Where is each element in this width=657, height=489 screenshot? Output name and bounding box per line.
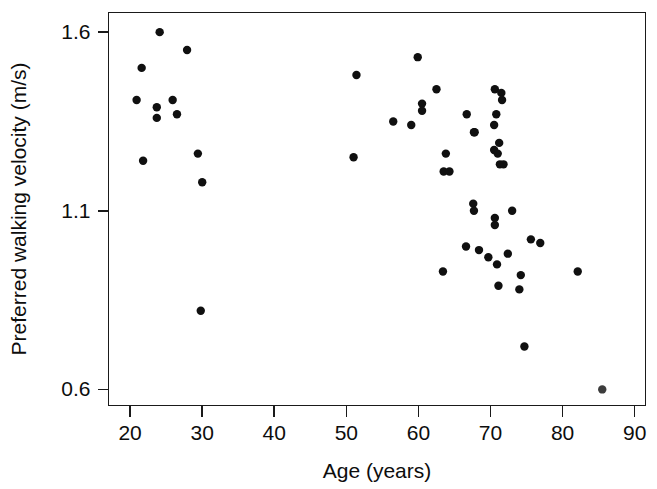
scatter-point bbox=[418, 99, 426, 107]
scatter-point bbox=[432, 85, 440, 93]
y-tick-label: 0.6 bbox=[61, 377, 90, 400]
scatter-point bbox=[414, 53, 422, 61]
scatter-point bbox=[194, 149, 202, 157]
data-points-layer bbox=[132, 28, 606, 394]
scatter-point bbox=[463, 110, 471, 118]
x-tick-label: 90 bbox=[623, 421, 646, 444]
scatter-point bbox=[490, 121, 498, 129]
scatter-point bbox=[132, 96, 140, 104]
plot-frame bbox=[109, 13, 646, 406]
scatter-point bbox=[491, 214, 499, 222]
scatter-point bbox=[515, 285, 523, 293]
scatter-point bbox=[494, 282, 502, 290]
scatter-point bbox=[504, 249, 512, 257]
scatter-point bbox=[498, 96, 506, 104]
scatter-point bbox=[445, 167, 453, 175]
scatter-point bbox=[139, 157, 147, 165]
x-axis-label: Age (years) bbox=[323, 459, 432, 482]
scatter-point bbox=[484, 253, 492, 261]
x-tick-label: 70 bbox=[479, 421, 502, 444]
scatter-point bbox=[493, 260, 501, 268]
scatter-point bbox=[494, 149, 502, 157]
y-tick-label: 1.6 bbox=[61, 20, 90, 43]
scatter-point bbox=[183, 46, 191, 54]
scatter-point bbox=[469, 199, 477, 207]
scatter-point bbox=[492, 110, 500, 118]
x-tick-label: 20 bbox=[118, 421, 141, 444]
scatter-point bbox=[598, 385, 606, 393]
scatter-point bbox=[168, 96, 176, 104]
scatter-point bbox=[198, 178, 206, 186]
scatter-plot-figure: 0.61.11.6 2030405060708090 Age (years) P… bbox=[0, 0, 657, 489]
scatter-point bbox=[137, 64, 145, 72]
scatter-point bbox=[407, 121, 415, 129]
scatter-point bbox=[508, 207, 516, 215]
plot-border bbox=[109, 13, 646, 406]
scatter-point bbox=[517, 271, 525, 279]
x-tick-label: 50 bbox=[335, 421, 358, 444]
scatter-point bbox=[491, 221, 499, 229]
x-tick-label: 60 bbox=[407, 421, 430, 444]
y-axis-ticks: 0.61.11.6 bbox=[61, 20, 108, 400]
y-tick-label: 1.1 bbox=[61, 199, 90, 222]
scatter-point bbox=[153, 103, 161, 111]
scatter-point bbox=[520, 342, 528, 350]
scatter-point bbox=[497, 89, 505, 97]
plot-canvas: 0.61.11.6 2030405060708090 Age (years) P… bbox=[0, 0, 657, 489]
x-tick-label: 30 bbox=[191, 421, 214, 444]
scatter-point bbox=[418, 107, 426, 115]
scatter-point bbox=[475, 246, 483, 254]
y-axis-label: Preferred walking velocity (m/s) bbox=[7, 63, 30, 356]
scatter-point bbox=[574, 267, 582, 275]
scatter-point bbox=[352, 71, 360, 79]
scatter-point bbox=[155, 28, 163, 36]
scatter-point bbox=[536, 239, 544, 247]
x-tick-label: 40 bbox=[263, 421, 286, 444]
scatter-point bbox=[499, 160, 507, 168]
scatter-point bbox=[470, 207, 478, 215]
x-axis-ticks: 2030405060708090 bbox=[118, 406, 646, 444]
scatter-point bbox=[173, 110, 181, 118]
x-tick-label: 80 bbox=[551, 421, 574, 444]
scatter-point bbox=[527, 235, 535, 243]
scatter-point bbox=[462, 242, 470, 250]
scatter-point bbox=[439, 267, 447, 275]
scatter-point bbox=[495, 139, 503, 147]
scatter-point bbox=[389, 117, 397, 125]
scatter-point bbox=[153, 114, 161, 122]
scatter-point bbox=[349, 153, 357, 161]
scatter-point bbox=[442, 149, 450, 157]
scatter-point bbox=[470, 128, 478, 136]
scatter-point bbox=[197, 307, 205, 315]
